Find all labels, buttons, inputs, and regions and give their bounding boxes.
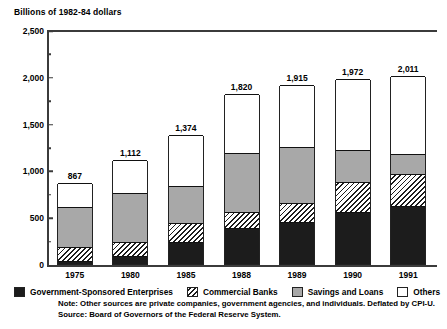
bar-segment[interactable]	[225, 94, 259, 153]
bar-group[interactable]: 867	[57, 31, 93, 265]
stacked-bar[interactable]	[57, 184, 93, 265]
bar-segment[interactable]	[280, 203, 314, 222]
legend-item-label: Government-Sponsored Enterprises	[30, 287, 173, 297]
bar-segment[interactable]	[391, 174, 425, 206]
bar-segment[interactable]	[280, 85, 314, 147]
bar-segment[interactable]	[391, 154, 425, 175]
bar-segment[interactable]	[169, 242, 203, 264]
legend-item[interactable]: Others	[397, 287, 440, 297]
bar-segment[interactable]	[280, 222, 314, 264]
legend-item-label: Commercial Banks	[203, 287, 278, 297]
stacked-bar[interactable]	[279, 86, 315, 265]
y-tick-label: 1,500	[23, 120, 44, 130]
x-tick-label: 1975	[45, 270, 105, 280]
bar-segment[interactable]	[336, 212, 370, 264]
x-tick-label: 1989	[267, 270, 327, 280]
y-tick-label: 500	[30, 213, 44, 223]
bar-segment[interactable]	[169, 223, 203, 243]
stacked-bar[interactable]	[112, 161, 148, 265]
bar-group[interactable]: 1,374	[168, 31, 204, 265]
x-tick-label: 1990	[323, 270, 383, 280]
y-tick-label: 2,500	[23, 26, 44, 36]
bar-segment[interactable]	[336, 150, 370, 182]
note-line: Source: Board of Governors of the Federa…	[58, 310, 438, 321]
x-tick-label: 1985	[156, 270, 216, 280]
bar-segment[interactable]	[169, 135, 203, 186]
bar-segment[interactable]	[336, 79, 370, 149]
legend-item-label: Others	[413, 287, 440, 297]
bar-segment[interactable]	[336, 182, 370, 212]
y-tick-label: 1,000	[23, 166, 44, 176]
solid-black-swatch	[14, 287, 25, 297]
bar-segment[interactable]	[58, 247, 92, 261]
stacked-bar[interactable]	[168, 136, 204, 265]
plot-area: 8671,1121,3741,8201,9151,9722,011	[47, 31, 436, 265]
bar-total-label: 1,820	[231, 82, 252, 92]
bar-segment[interactable]	[58, 207, 92, 247]
bar-segment[interactable]	[280, 147, 314, 203]
bar-segment[interactable]	[225, 228, 259, 264]
stacked-bar[interactable]	[390, 77, 426, 265]
y-tick-label: 2,000	[23, 73, 44, 83]
x-tick-label: 1980	[100, 270, 160, 280]
chart-legend: Government-Sponsored EnterprisesCommerci…	[14, 286, 434, 298]
bar-segment[interactable]	[225, 212, 259, 229]
bar-group[interactable]: 1,915	[279, 31, 315, 265]
bar-group[interactable]: 1,972	[335, 31, 371, 265]
white-swatch	[397, 287, 408, 297]
bar-total-label: 1,112	[120, 148, 141, 158]
bar-total-label: 867	[68, 171, 82, 181]
bar-total-label: 2,011	[398, 64, 419, 74]
bar-segment[interactable]	[58, 183, 92, 207]
gray-swatch	[292, 287, 303, 297]
x-tick-label: 1991	[378, 270, 438, 280]
legend-item[interactable]: Commercial Banks	[187, 287, 292, 297]
x-axis-line	[47, 265, 437, 267]
hatch-swatch	[187, 287, 198, 297]
bar-segment[interactable]	[113, 193, 147, 242]
legend-item[interactable]: Government-Sponsored Enterprises	[14, 287, 187, 297]
stacked-bar[interactable]	[335, 80, 371, 265]
y-axis-tick-labels: 05001,0001,5002,0002,500	[0, 0, 44, 329]
legend-item-label: Savings and Loans	[308, 287, 384, 297]
bar-total-label: 1,915	[286, 73, 307, 83]
stacked-bar[interactable]	[224, 95, 260, 265]
chart-notes: Note: Other sources are private companie…	[58, 299, 438, 320]
bar-segment[interactable]	[225, 153, 259, 212]
bar-group[interactable]: 1,820	[224, 31, 260, 265]
bar-segment[interactable]	[58, 261, 92, 264]
bar-segment[interactable]	[169, 186, 203, 223]
legend-item[interactable]: Savings and Loans	[292, 287, 398, 297]
bar-segment[interactable]	[113, 242, 147, 257]
bar-group[interactable]: 1,112	[112, 31, 148, 265]
bar-total-label: 1,972	[342, 67, 363, 77]
mortgage-holders-stacked-bar-chart: Billions of 1982-84 dollars 05001,0001,5…	[0, 0, 447, 329]
y-tick-label: 0	[39, 260, 44, 270]
bar-group[interactable]: 2,011	[390, 31, 426, 265]
bar-segment[interactable]	[391, 76, 425, 154]
bar-total-label: 1,374	[175, 123, 196, 133]
bar-segment[interactable]	[113, 160, 147, 193]
bar-segment[interactable]	[391, 206, 425, 264]
note-line: Note: Other sources are private companie…	[58, 299, 438, 310]
x-tick-label: 1988	[212, 270, 272, 280]
bar-segment[interactable]	[113, 256, 147, 264]
